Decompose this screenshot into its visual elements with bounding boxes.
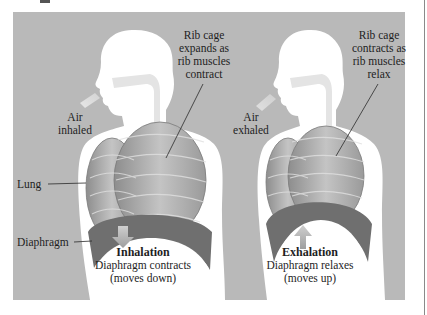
air-exhaled-label: Air exhaled: [226, 111, 276, 137]
air-inhaled-label: Air inhaled: [52, 111, 98, 137]
exhalation-rib-cage-label: Rib cage contracts as rib muscles relax: [346, 29, 412, 81]
label-line: inhaled: [52, 124, 98, 137]
lung-label: Lung: [17, 178, 41, 191]
label-line: Rib cage: [168, 29, 240, 42]
label-line: Air: [52, 111, 98, 124]
label-line: Rib cage: [346, 29, 412, 42]
label-line: contracts as: [346, 42, 412, 55]
label-line: Air: [226, 111, 276, 124]
label-line: contract: [168, 68, 240, 81]
inhalation-caption-line1: Diaphragm contracts: [80, 259, 206, 272]
inhaled-air-stream-icon: [80, 93, 100, 108]
label-line: rib muscles: [346, 55, 412, 68]
inhalation-title: Inhalation: [80, 246, 206, 259]
exhalation-title: Exhalation: [256, 246, 364, 259]
inhalation-rib-cage-label: Rib cage expands as rib muscles contract: [168, 29, 240, 81]
exhalation-caption-line1: Diaphragm relaxes: [256, 259, 364, 272]
label-line: expands as: [168, 42, 240, 55]
exhalation-caption: Exhalation Diaphragm relaxes (moves up): [256, 246, 364, 285]
inhalation-caption-line2: (moves down): [80, 272, 206, 285]
label-line: rib muscles: [168, 55, 240, 68]
inhalation-caption: Inhalation Diaphragm contracts (moves do…: [80, 246, 206, 285]
label-line: relax: [346, 68, 412, 81]
exhalation-caption-line2: (moves up): [256, 272, 364, 285]
diaphragm-label: Diaphragm: [17, 236, 69, 249]
exhaled-air-stream-icon: [256, 94, 276, 111]
label-line: exhaled: [226, 124, 276, 137]
